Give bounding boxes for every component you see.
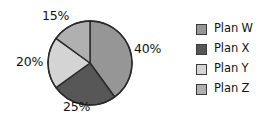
legend-item: Plan W	[196, 19, 269, 39]
legend-item-label: Plan Y	[214, 63, 249, 75]
legend-item: Plan Y	[196, 59, 269, 79]
slice-label-plan-z: 15%	[42, 10, 69, 23]
legend-item: Plan X	[196, 39, 269, 59]
legend-swatch-icon	[196, 24, 207, 35]
legend: Plan W Plan X Plan Y Plan Z	[196, 19, 269, 99]
slice-label-plan-y: 20%	[16, 56, 43, 69]
legend-swatch-icon	[196, 84, 207, 95]
legend-item: Plan Z	[196, 79, 269, 99]
legend-item-label: Plan Z	[214, 83, 249, 95]
legend-swatch-icon	[196, 64, 207, 75]
legend-swatch-icon	[196, 44, 207, 55]
slice-label-plan-w: 40%	[134, 43, 161, 56]
pie-chart-figure: 40% 25% 20% 15% Plan W Plan X Plan Y Pla…	[0, 0, 269, 124]
pie-plot-area: 40% 25% 20% 15%	[0, 0, 185, 124]
legend-item-label: Plan X	[214, 43, 249, 55]
slice-label-plan-x: 25%	[63, 101, 90, 114]
legend-item-label: Plan W	[214, 23, 253, 35]
